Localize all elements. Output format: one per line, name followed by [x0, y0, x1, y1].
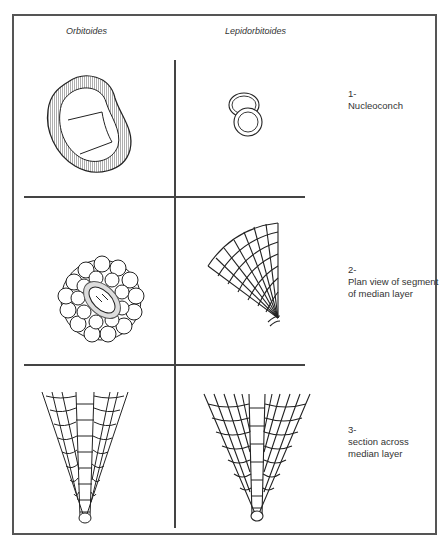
row-text-1: Nucleoconch — [348, 100, 403, 112]
row-number-1: 1- — [348, 88, 403, 100]
row-label-2: 2- Plan view of segment of median layer — [348, 264, 438, 300]
grid-divider-horizontal-2 — [24, 364, 305, 366]
row-label-3: 3- section across median layer — [348, 424, 409, 460]
orbitoides-nucleoconch-drawing — [40, 70, 140, 180]
row-text-3b: median layer — [348, 448, 409, 460]
row-number-3: 3- — [348, 424, 409, 436]
row-text-3a: section across — [348, 436, 409, 448]
row-label-1: 1- Nucleoconch — [348, 88, 403, 112]
lepidorbitoides-nucleoconch-drawing — [222, 88, 272, 143]
lepidorbitoides-plan-view-drawing — [208, 218, 288, 328]
row-text-2b: of median layer — [348, 288, 438, 300]
column-title-lepidorbitoides: Lepidorbitoides — [225, 26, 286, 36]
grid-divider-horizontal-1 — [24, 196, 305, 198]
orbitoides-plan-view-drawing — [56, 252, 146, 347]
column-title-orbitoides: Orbitoides — [66, 26, 107, 36]
orbitoides-section-drawing — [40, 390, 130, 525]
row-number-2: 2- — [348, 264, 438, 276]
lepidorbitoides-section-drawing — [202, 392, 312, 522]
cropped-caption-text — [10, 548, 440, 560]
row-text-2a: Plan view of segment — [348, 276, 438, 288]
grid-divider-vertical — [174, 60, 176, 528]
